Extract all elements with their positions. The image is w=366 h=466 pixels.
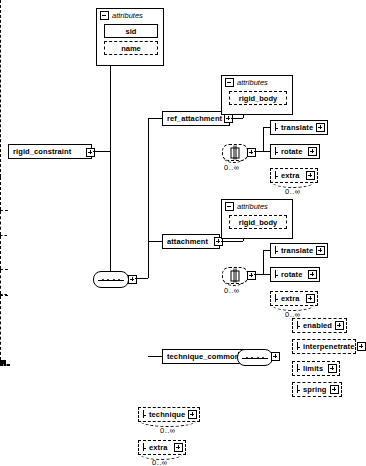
node-enabled[interactable]: enabled bbox=[292, 318, 347, 333]
connector-to-technique-common bbox=[148, 356, 162, 357]
attributes-panel-attachment: attributes rigid_body bbox=[221, 199, 293, 239]
attributes-header-label: attributes bbox=[112, 11, 143, 20]
attribute-label: rigid_body bbox=[239, 218, 277, 227]
node-label: rotate bbox=[281, 148, 305, 156]
node-interpenetrate[interactable]: interpenetrate bbox=[292, 339, 356, 354]
connector-root-stem bbox=[93, 151, 110, 152]
connector-attachment-children-trunk-solid bbox=[263, 250, 264, 274]
connector-ref-attachment-to-choice bbox=[0, 210, 8, 211]
plus-icon-rotate[interactable] bbox=[308, 270, 317, 279]
node-label: extra bbox=[281, 172, 303, 180]
node-translate-attachment[interactable]: translate bbox=[270, 243, 328, 258]
minus-icon-attributes[interactable] bbox=[225, 78, 234, 87]
plus-icon-interpenetrate[interactable] bbox=[357, 342, 366, 351]
attribute-label: sid bbox=[126, 27, 137, 36]
sequence-compositor-root[interactable] bbox=[93, 271, 129, 288]
connector-attachment-stem bbox=[221, 241, 243, 242]
node-technique[interactable]: technique bbox=[138, 407, 200, 422]
connector-technique-common-children-trunk bbox=[0, 296, 1, 360]
attributes-header-label: attributes bbox=[237, 78, 268, 87]
node-extra-attachment[interactable]: extra bbox=[270, 291, 318, 306]
connector-choice-ref-stem bbox=[254, 151, 263, 152]
connector-to-translate-2 bbox=[263, 250, 270, 251]
connector-to-rotate-2 bbox=[263, 274, 270, 275]
node-label: rigid_constraint bbox=[13, 148, 89, 156]
element-marker-icon bbox=[143, 410, 147, 419]
node-rotate-attachment[interactable]: rotate bbox=[270, 267, 320, 282]
minus-icon-attributes[interactable] bbox=[100, 11, 109, 20]
connector-child-trunk-dashed bbox=[0, 0, 1, 177]
plus-icon-choice-ref-attachment[interactable] bbox=[247, 148, 256, 157]
node-label: ref_attachment bbox=[167, 115, 227, 123]
connector-technique-common-children-stem bbox=[0, 295, 8, 296]
plus-icon-translate[interactable] bbox=[316, 246, 325, 255]
connector-to-attachment bbox=[148, 241, 162, 242]
element-marker-icon bbox=[297, 385, 301, 394]
attributes-header[interactable]: attributes bbox=[222, 76, 292, 89]
node-label: technique bbox=[149, 411, 185, 419]
connector-ref-children-trunk-solid bbox=[263, 127, 264, 151]
element-marker-icon bbox=[275, 171, 279, 180]
node-limits[interactable]: limits bbox=[292, 361, 340, 376]
node-label: translate bbox=[281, 247, 313, 255]
connector-seq-stem bbox=[135, 278, 148, 279]
attributes-header[interactable]: attributes bbox=[97, 9, 163, 22]
plus-icon-sequence-root[interactable] bbox=[128, 275, 137, 284]
plus-icon-technique[interactable] bbox=[188, 410, 197, 419]
connector-to-ref-attachment bbox=[148, 118, 162, 119]
connector-to-extra-tail bbox=[0, 365, 10, 366]
node-technique-common[interactable]: technique_common bbox=[162, 349, 244, 364]
node-label: extra bbox=[281, 295, 303, 303]
attributes-panel-ref-attachment: attributes rigid_body bbox=[221, 75, 293, 115]
minus-icon-attributes[interactable] bbox=[225, 202, 234, 211]
node-label: translate bbox=[281, 124, 313, 132]
node-rotate-ref-attachment[interactable]: rotate bbox=[270, 144, 320, 159]
node-attachment[interactable]: attachment bbox=[162, 234, 220, 249]
connector-trunk-upper bbox=[110, 58, 111, 152]
plus-icon-extra-tail[interactable] bbox=[174, 443, 183, 452]
node-label: spring bbox=[303, 386, 327, 394]
node-translate-ref-attachment[interactable]: translate bbox=[270, 120, 328, 135]
plus-icon-enabled[interactable] bbox=[335, 321, 344, 330]
attributes-header[interactable]: attributes bbox=[222, 200, 292, 213]
plus-icon-extra[interactable] bbox=[306, 171, 315, 180]
element-marker-icon bbox=[275, 294, 279, 303]
node-label: attachment bbox=[167, 238, 217, 246]
plus-icon-rotate[interactable] bbox=[308, 147, 317, 156]
element-marker-icon bbox=[143, 443, 147, 452]
element-marker-icon bbox=[297, 321, 301, 330]
connector-to-translate-1 bbox=[263, 127, 270, 128]
cardinality-technique: 0..∞ bbox=[160, 426, 176, 435]
node-extra-tail[interactable]: extra bbox=[138, 440, 186, 455]
node-ref-attachment[interactable]: ref_attachment bbox=[162, 111, 230, 126]
node-label: extra bbox=[149, 444, 171, 452]
plus-icon-choice-attachment[interactable] bbox=[247, 271, 256, 280]
node-extra-ref-attachment[interactable]: extra bbox=[270, 168, 318, 183]
attribute-sid[interactable]: sid bbox=[104, 24, 158, 38]
node-label: enabled bbox=[303, 322, 332, 330]
attribute-rigid-body[interactable]: rigid_body bbox=[229, 91, 287, 105]
plus-icon-sequence-technique-common[interactable] bbox=[271, 352, 280, 361]
connector-to-extra-1 bbox=[0, 235, 7, 236]
connector-to-rotate-1 bbox=[263, 151, 270, 152]
connector-attachment-to-choice bbox=[0, 269, 8, 270]
connector-attachment-trunk-down bbox=[0, 236, 1, 269]
plus-icon-spring[interactable] bbox=[330, 385, 339, 394]
cardinality-ref-attachment-choice: 0..∞ bbox=[224, 163, 240, 172]
node-spring[interactable]: spring bbox=[292, 382, 342, 397]
element-marker-icon bbox=[275, 246, 279, 255]
attribute-rigid-body[interactable]: rigid_body bbox=[229, 215, 287, 229]
element-marker-icon bbox=[297, 364, 301, 373]
connector-ref-attachment-stem bbox=[231, 118, 243, 119]
plus-icon-extra[interactable] bbox=[306, 294, 315, 303]
node-label: interpenetrate bbox=[303, 343, 354, 351]
sequence-compositor-technique-common[interactable] bbox=[237, 349, 273, 366]
attributes-header-label: attributes bbox=[237, 202, 268, 211]
plus-icon-rigid-constraint[interactable] bbox=[86, 148, 95, 157]
node-rigid-constraint[interactable]: rigid_constraint bbox=[8, 144, 92, 159]
connector-attachment-children-trunk-dashed bbox=[0, 270, 1, 294]
attribute-name[interactable]: name bbox=[104, 41, 158, 55]
plus-icon-limits[interactable] bbox=[328, 364, 337, 373]
plus-icon-translate[interactable] bbox=[316, 123, 325, 132]
